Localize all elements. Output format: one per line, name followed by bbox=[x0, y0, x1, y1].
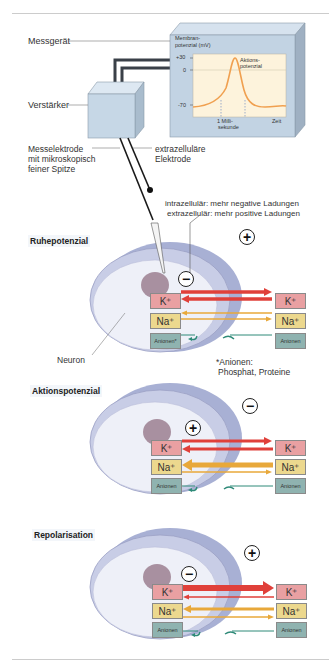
inside-sign-action: + bbox=[185, 420, 201, 436]
outside-sign-action: − bbox=[242, 398, 258, 414]
outside-sign-resting: + bbox=[239, 229, 255, 245]
amplifier-label: Verstärker bbox=[28, 100, 69, 110]
curve-label-2: potenzial bbox=[240, 63, 262, 69]
meter-label: Messgerät bbox=[28, 36, 70, 46]
y-tick-0: 0 bbox=[183, 67, 186, 73]
k-box-outside-resting: K⁺ bbox=[275, 293, 306, 309]
na-box-outside-action: Na⁺ bbox=[275, 459, 306, 475]
screen-y-title-2: potenzial (mV) bbox=[175, 42, 210, 48]
inside-sign-repolarisation: − bbox=[181, 566, 197, 582]
measuring-electrode-label-1: Messelektrode bbox=[28, 144, 83, 154]
extracellular-electrode-label-1: extrazelluläre bbox=[155, 144, 206, 154]
y-tick-minus70: -70 bbox=[178, 102, 186, 108]
measuring-electrode-label-3: feiner Spitze bbox=[28, 164, 75, 174]
na-box-inside-action: Na⁺ bbox=[151, 459, 182, 475]
k-box-inside-resting: K⁺ bbox=[150, 293, 181, 309]
inside-sign-resting: − bbox=[178, 271, 194, 287]
outside-sign-repolarisation: + bbox=[244, 545, 260, 561]
bottom-divider bbox=[12, 659, 329, 660]
anion-box-inside-resting: Anionen* bbox=[150, 333, 181, 349]
neuron-label: Neuron bbox=[57, 355, 85, 365]
anion-box-outside-resting: Anionen bbox=[275, 333, 306, 349]
anion-footnote-2: Phosphat, Proteine bbox=[218, 367, 290, 377]
k-box-inside-action: K⁺ bbox=[151, 440, 182, 456]
measuring-electrode-label-2: mit mikroskopisch bbox=[28, 154, 96, 164]
na-box-inside-resting: Na⁺ bbox=[150, 313, 181, 329]
y-tick-plus30: +30 bbox=[176, 54, 185, 60]
screen-y-title-1: Membran- bbox=[175, 35, 200, 41]
k-box-inside-repolarisation: K⁺ bbox=[152, 584, 183, 600]
anion-box-inside-repolarisation: Anionen bbox=[152, 622, 183, 638]
charge-note-2: extrazellulär: mehr positive Ladungen bbox=[167, 209, 300, 219]
na-box-outside-repolarisation: Na⁺ bbox=[276, 603, 307, 619]
extracellular-electrode-label-2: Elektrode bbox=[155, 154, 191, 164]
anion-box-outside-repolarisation: Anionen bbox=[276, 622, 307, 638]
na-box-inside-repolarisation: Na⁺ bbox=[152, 603, 183, 619]
anion-box-inside-action: Anionen bbox=[151, 478, 182, 494]
x-axis-title: Zeit bbox=[272, 118, 281, 124]
charge-note-1: intrazellulär: mehr negative Ladungen bbox=[165, 199, 299, 209]
anion-footnote-1: *Anionen: bbox=[216, 357, 253, 367]
anion-box-outside-action: Anionen bbox=[275, 478, 306, 494]
x-tick-2: sekunde bbox=[218, 124, 239, 130]
na-box-outside-resting: Na⁺ bbox=[275, 313, 306, 329]
k-box-outside-action: K⁺ bbox=[275, 440, 306, 456]
k-box-outside-repolarisation: K⁺ bbox=[276, 584, 307, 600]
